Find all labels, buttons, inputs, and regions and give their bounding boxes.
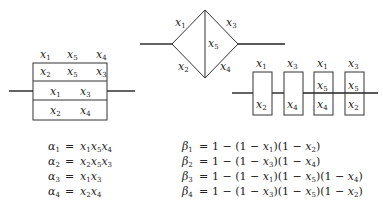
box-inner-label: x4​ [287,98,298,112]
reliability-diagrams: x1​x5​x4​x2​x5​x3​x1​x3​x2​x4​ x1​x3​x5​… [0,0,383,202]
edge-label-center: x5​ [208,37,219,51]
series-box: x1​x2​ [253,57,272,115]
edge-label-top-right: x3​ [226,16,237,30]
component-label: x2​ [50,104,61,118]
equals-sign: = [65,185,74,198]
box-inner-label: x2​ [256,98,267,112]
alpha-rhs: x2​x4​ [80,185,102,199]
beta-rhs: 1 − (1 − x1​)(1 − x5​)(1 − x4​) [212,170,363,184]
box-top-label: x3​ [348,57,359,71]
equals-sign: = [65,155,74,168]
equals-sign: = [65,170,74,183]
beta-lhs: β2​ [181,155,193,169]
component-label: x2​ [40,65,51,79]
alpha-lhs: α2​ [48,155,60,169]
component-label: x5​ [67,48,78,62]
alpha-rhs: x1​x3​ [80,170,101,184]
box-inner-label: x5​ [348,79,359,93]
alpha-lhs: α1​ [48,140,60,154]
beta-lhs: β3​ [181,170,193,184]
diagram-1: x1​x5​x4​x2​x5​x3​x1​x3​x2​x4​ [9,48,135,120]
edge-label-top-left: x1​ [175,16,186,30]
edge-label-bottom-right: x4​ [220,60,231,74]
edge-label-bottom-left: x2​ [178,60,189,74]
beta-lhs: β1​ [181,140,193,154]
equals-sign: = [199,140,208,153]
equals-sign: = [199,155,208,168]
equals-sign: = [65,140,74,153]
box-top-label: x1​ [317,57,328,71]
box-inner-label: x4​ [317,98,328,112]
series-box: x3​x4​ [284,57,303,115]
component-label: x1​ [50,85,61,99]
box-top-label: x1​ [256,57,267,71]
series-box: x1​x5​x4​ [314,57,333,115]
equals-sign: = [199,185,208,198]
equals-sign: = [199,170,208,183]
box-top-label: x3​ [287,57,298,71]
beta-lhs: β4​ [181,185,193,199]
component-label: x4​ [80,104,91,118]
series-box: x3​x5​x2​ [345,57,364,115]
beta-rhs: 1 − (1 − x1​)(1 − x2​) [212,140,320,154]
diagram-3: x1​x2​x3​x4​x1​x5​x4​x3​x5​x2​ [232,57,378,115]
box-inner-label: x2​ [348,98,359,112]
component-label: x3​ [80,85,91,99]
box-inner-label: x5​ [317,79,328,93]
alpha-rhs: x1​x5​x4​ [80,140,113,154]
component-label: x4​ [96,48,107,62]
component-label: x5​ [67,65,78,79]
component-label: x3​ [96,65,107,79]
alpha-rhs: x2​x5​x3​ [80,155,112,169]
component-label: x1​ [40,48,51,62]
alpha-lhs: α4​ [48,185,60,199]
alpha-lhs: α3​ [48,170,60,184]
beta-rhs: 1 − (1 − x3​)(1 − x4​) [212,155,320,169]
beta-rhs: 1 − (1 − x3​)(1 − x5​)(1 − x2​) [212,185,363,199]
